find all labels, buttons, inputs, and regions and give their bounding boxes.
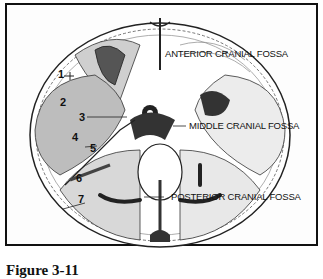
label-posterior-cranial-fossa: POSTERIOR CRANIAL FOSSA xyxy=(171,191,301,202)
label-middle-cranial-fossa: MIDDLE CRANIAL FOSSA xyxy=(189,120,299,131)
label-anterior-cranial-fossa: ANTERIOR CRANIAL FOSSA xyxy=(165,48,288,59)
figure-caption: Figure 3-11 xyxy=(6,262,79,279)
number-label-7: 7 xyxy=(78,193,84,205)
number-label-1: 1 xyxy=(58,68,64,80)
number-label-2: 2 xyxy=(60,96,66,108)
number-label-3: 3 xyxy=(79,111,85,123)
number-label-5: 5 xyxy=(90,142,96,154)
skull-base-illustration xyxy=(0,0,323,279)
number-label-6: 6 xyxy=(76,172,82,184)
number-label-4: 4 xyxy=(72,131,78,143)
